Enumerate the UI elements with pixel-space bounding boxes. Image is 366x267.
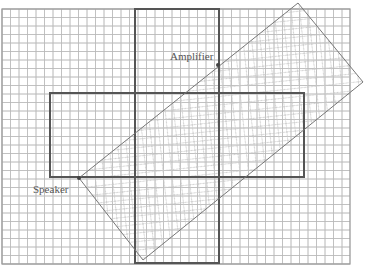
speaker-point bbox=[77, 176, 81, 180]
amplifier-label: Amplifier bbox=[170, 50, 214, 62]
floor-plan-diagram: Amplifier Speaker bbox=[0, 0, 366, 267]
speaker-label: Speaker bbox=[33, 183, 69, 195]
amplifier-point bbox=[216, 63, 220, 67]
